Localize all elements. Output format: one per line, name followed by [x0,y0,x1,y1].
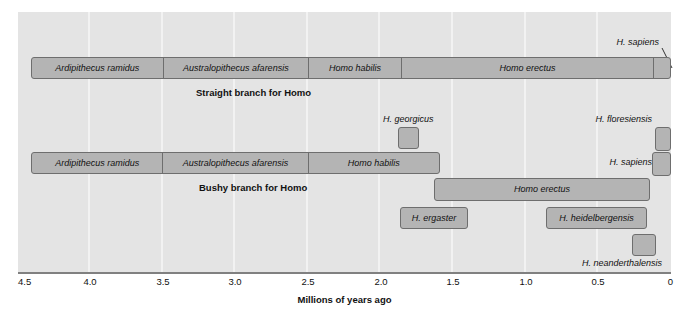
straight-segment-label: Australopithecus afarensis [183,64,289,73]
x-tick-label-3.0: 3.0 [228,276,241,287]
bushy-bar-homo-erectus: Homo erectus [434,178,650,201]
gridline-4.0 [88,12,90,272]
straight-branch-caption: Straight branch for Homo [196,88,311,98]
straight-segment-ardipithecus-ramidus: Ardipithecus ramidus [32,58,164,78]
bushy-neanderthalensis-label: H. neanderthalensis [582,259,662,268]
bushy-bar-h-neanderthalensis [632,234,656,256]
bushy-bar-h-ergaster: H. ergaster [400,207,468,229]
straight-segment-label: Ardipithecus ramidus [55,64,139,73]
x-tick-label-0: 0 [668,276,673,287]
straight-segment-label: Homo habilis [329,64,381,73]
x-tick-label-1.0: 1.0 [519,276,532,287]
x-axis-line [18,272,671,274]
gridline-3.5 [161,12,163,272]
gridline-2.0 [378,12,380,272]
straight-segment-label: Homo erectus [499,64,555,73]
x-axis-title: Millions of years ago [0,294,689,305]
straight-segment-australopithecus-afarensis: Australopithecus afarensis [164,58,310,78]
bushy-segment-australopithecus-afarensis: Australopithecus afarensis [163,153,308,173]
bushy-bar-h-georgicus [398,127,419,149]
gridline-1.0 [524,12,526,272]
straight-segment-homo-sapiens [654,58,670,78]
bushy-sapiens-label: H. sapiens [609,158,652,167]
bushy-segment-homo-habilis: Homo habilis [309,153,439,173]
bushy-bar-h-heidelbergensis: H. heidelbergensis [546,207,647,229]
x-tick-label-4.0: 4.0 [83,276,96,287]
gridline-1.5 [451,12,453,272]
gridline-3.0 [233,12,235,272]
bushy-segment-label: Ardipithecus ramidus [55,159,139,168]
bushy-bar-h-sapiens [652,152,671,176]
evolution-timeline-figure: H. sapiens Ardipithecus ramidus Australo… [0,0,689,313]
bushy-bar-label: Homo erectus [514,185,570,194]
x-tick-label-2.0: 2.0 [374,276,387,287]
bushy-branch-caption: Bushy branch for Homo [199,183,307,193]
plot-panel [18,12,671,272]
x-tick-label-3.5: 3.5 [156,276,169,287]
bushy-bar-label: H. ergaster [412,214,457,223]
straight-branch-bar: Ardipithecus ramidus Australopithecus af… [31,57,671,79]
bushy-segment-ardipithecus-ramidus: Ardipithecus ramidus [32,153,163,173]
bushy-bar-h-floresiensis [655,127,671,151]
gridline-0.5 [596,12,598,272]
bushy-georgicus-label: H. georgicus [383,115,434,124]
gridline-2.5 [306,12,308,272]
x-tick-label-2.5: 2.5 [301,276,314,287]
bushy-floresiensis-label: H. floresiensis [595,115,652,124]
straight-segment-homo-erectus: Homo erectus [402,58,654,78]
x-tick-label-0.5: 0.5 [591,276,604,287]
x-tick-label-1.5: 1.5 [446,276,459,287]
bushy-segment-label: Homo habilis [348,159,400,168]
bushy-branch-bar: Ardipithecus ramidus Australopithecus af… [31,152,440,174]
bushy-segment-label: Australopithecus afarensis [183,159,289,168]
x-tick-label-4.5: 4.5 [18,276,31,287]
straight-segment-homo-habilis: Homo habilis [309,58,402,78]
bushy-bar-label: H. heidelbergensis [559,214,634,223]
